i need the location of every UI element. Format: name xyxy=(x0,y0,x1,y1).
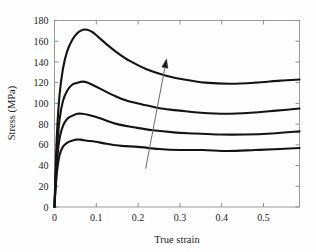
y-axis-title: Stress (MPa) xyxy=(6,85,18,140)
y-tick-label: 80 xyxy=(39,119,49,130)
x-tick-label: 0.4 xyxy=(215,212,228,223)
y-tick-label: 100 xyxy=(34,98,49,109)
x-tick-label: 0.3 xyxy=(174,212,187,223)
y-tick-label: 180 xyxy=(34,15,49,26)
y-tick-label: 140 xyxy=(34,57,49,68)
x-axis-title: True strain xyxy=(154,234,200,245)
y-tick-label: 120 xyxy=(34,77,49,88)
y-tick-label: 0 xyxy=(44,202,49,213)
x-tick-label: 0.2 xyxy=(132,212,145,223)
x-tick-label: 0.5 xyxy=(257,212,270,223)
x-tick-label: 0 xyxy=(52,212,57,223)
x-tick-label: 0.1 xyxy=(90,212,103,223)
y-tick-label: 160 xyxy=(34,36,49,47)
y-tick-label: 20 xyxy=(39,181,49,192)
figure-container: 020406080100120140160180 00.10.20.30.40.… xyxy=(0,0,316,252)
y-tick-label: 40 xyxy=(39,160,49,171)
stress-strain-chart: 020406080100120140160180 00.10.20.30.40.… xyxy=(0,0,316,252)
y-tick-label: 60 xyxy=(39,139,49,150)
